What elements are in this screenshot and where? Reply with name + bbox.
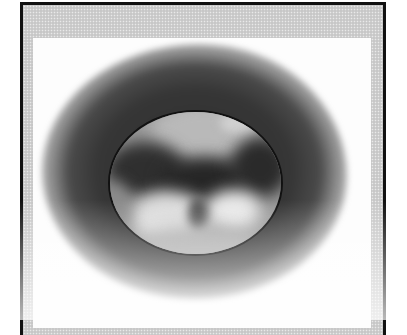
surface-dark-right	[230, 137, 283, 197]
surface-light-cap	[220, 112, 260, 134]
planet-globe	[108, 110, 283, 256]
surface-light-bottom-right	[205, 190, 260, 230]
